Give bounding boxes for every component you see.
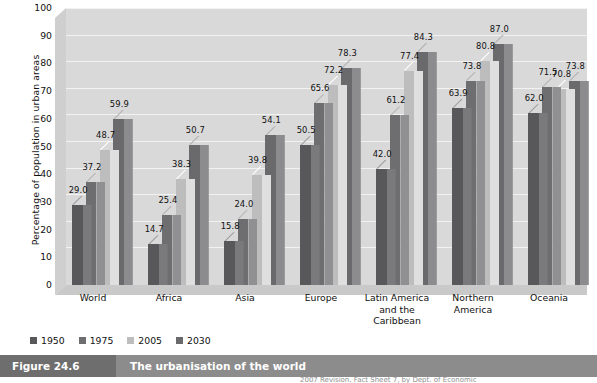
bar-side-face xyxy=(352,68,361,285)
bar-side-face xyxy=(490,61,499,285)
bar-side-face xyxy=(338,85,347,285)
bar-value-label: 72.2 xyxy=(324,65,343,75)
bar-top-face xyxy=(162,206,173,215)
bar xyxy=(72,205,83,285)
bar-value-label: 77.4 xyxy=(400,51,419,61)
bar-side-face xyxy=(400,115,409,285)
y-tick-label: 30 xyxy=(18,197,52,207)
bar-top-face xyxy=(452,99,463,108)
bar-value-label: 73.8 xyxy=(462,61,481,71)
bar-side-face xyxy=(504,44,513,285)
bar-value-label: 54.1 xyxy=(262,115,281,125)
bar-side-face xyxy=(276,135,285,285)
bar-side-face xyxy=(159,244,168,285)
bar-side-face xyxy=(552,87,561,285)
bar xyxy=(300,145,311,285)
bar-side-face xyxy=(262,175,271,285)
bar xyxy=(224,241,235,285)
bar-value-label: 50.5 xyxy=(297,125,316,135)
bar-top-face xyxy=(252,166,263,175)
legend-label: 2030 xyxy=(187,335,211,346)
bar-top-face xyxy=(148,235,159,244)
legend-swatch-icon xyxy=(176,337,183,344)
bar-value-label: 73.8 xyxy=(566,61,585,71)
bar-side-face xyxy=(200,145,209,285)
bar-top-face xyxy=(390,106,401,115)
bar-value-label: 15.8 xyxy=(221,221,240,231)
bar-front-face xyxy=(148,244,159,285)
urbanisation-bar-chart: Percentage of population in urban areas … xyxy=(0,0,597,352)
y-tick-label: 90 xyxy=(18,31,52,41)
bar-value-label: 37.2 xyxy=(82,162,101,172)
bar-value-label: 48.7 xyxy=(96,130,115,140)
bar xyxy=(148,244,159,285)
bar-top-face xyxy=(542,78,553,87)
plot-area: 29.037.248.759.914.725.438.350.715.824.0… xyxy=(55,8,587,295)
y-tick-label: 0 xyxy=(18,280,52,290)
x-axis-label: Oceania xyxy=(501,292,597,304)
legend-item-1975: 1975 xyxy=(79,335,114,346)
bar-side-face xyxy=(311,145,320,285)
bar-side-face xyxy=(110,150,119,285)
bar-series-container: 29.037.248.759.914.725.438.350.715.824.0… xyxy=(55,8,587,295)
bar-value-label: 65.6 xyxy=(310,83,329,93)
bar-value-label: 50.7 xyxy=(186,125,205,135)
bar-value-label: 63.9 xyxy=(449,88,468,98)
bar-top-face xyxy=(86,173,97,182)
bar-side-face xyxy=(580,81,589,285)
bar-side-face xyxy=(428,52,437,286)
bar-side-face xyxy=(539,113,548,285)
figure-caption-text: The urbanisation of the world xyxy=(116,360,306,372)
bar-side-face xyxy=(235,241,244,285)
bar-value-label: 42.0 xyxy=(373,149,392,159)
bar xyxy=(376,169,387,285)
legend-label: 1950 xyxy=(41,335,65,346)
bar xyxy=(528,113,539,285)
legend-item-2005: 2005 xyxy=(127,335,162,346)
bar-top-face xyxy=(466,72,477,81)
bar-side-face xyxy=(566,89,575,285)
bar-side-face xyxy=(124,119,133,285)
y-tick-label: 10 xyxy=(18,252,52,262)
bar-top-face xyxy=(224,232,235,241)
bar-side-face xyxy=(186,179,195,285)
figure-source-note: 2007 Revision. Fact Sheet 7, by Dept. of… xyxy=(300,376,597,383)
figure-caption-band: Figure 24.6 The urbanisation of the worl… xyxy=(0,355,597,377)
y-axis-tick-labels: 0102030405060708090100 xyxy=(18,0,52,310)
legend-label: 1975 xyxy=(90,335,114,346)
bar-top-face xyxy=(265,126,276,135)
bar-top-face xyxy=(528,104,539,113)
bar-value-label: 59.9 xyxy=(110,99,129,109)
legend-swatch-icon xyxy=(30,337,37,344)
bar-top-face xyxy=(404,62,415,71)
bar-value-label: 84.3 xyxy=(414,32,433,42)
y-tick-label: 100 xyxy=(18,3,52,13)
bar-value-label: 25.4 xyxy=(158,195,177,205)
bar-front-face xyxy=(528,113,539,285)
bar-front-face xyxy=(452,108,463,285)
bar-value-label: 61.2 xyxy=(386,95,405,105)
bar-top-face xyxy=(100,141,111,150)
bar-top-face xyxy=(176,170,187,179)
y-tick-label: 80 xyxy=(18,58,52,68)
legend-swatch-icon xyxy=(127,337,134,344)
y-tick-label: 70 xyxy=(18,86,52,96)
bar-side-face xyxy=(476,81,485,285)
legend-item-1950: 1950 xyxy=(30,335,65,346)
bar-top-face xyxy=(113,110,124,119)
bar-value-label: 38.3 xyxy=(172,159,191,169)
figure-number: Figure 24.6 xyxy=(0,355,116,377)
bar-side-face xyxy=(172,215,181,285)
bar-value-label: 14.7 xyxy=(145,224,164,234)
bar-front-face xyxy=(224,241,235,285)
bar-side-face xyxy=(387,169,396,285)
y-tick-label: 50 xyxy=(18,142,52,152)
bar-side-face xyxy=(324,103,333,285)
bar-side-face xyxy=(96,182,105,285)
bar-value-label: 62.0 xyxy=(525,93,544,103)
bar-front-face xyxy=(376,169,387,285)
bar-value-label: 87.0 xyxy=(490,24,509,34)
bar-value-label: 78.3 xyxy=(338,48,357,58)
bar-top-face xyxy=(72,196,83,205)
bar-front-face xyxy=(300,145,311,285)
